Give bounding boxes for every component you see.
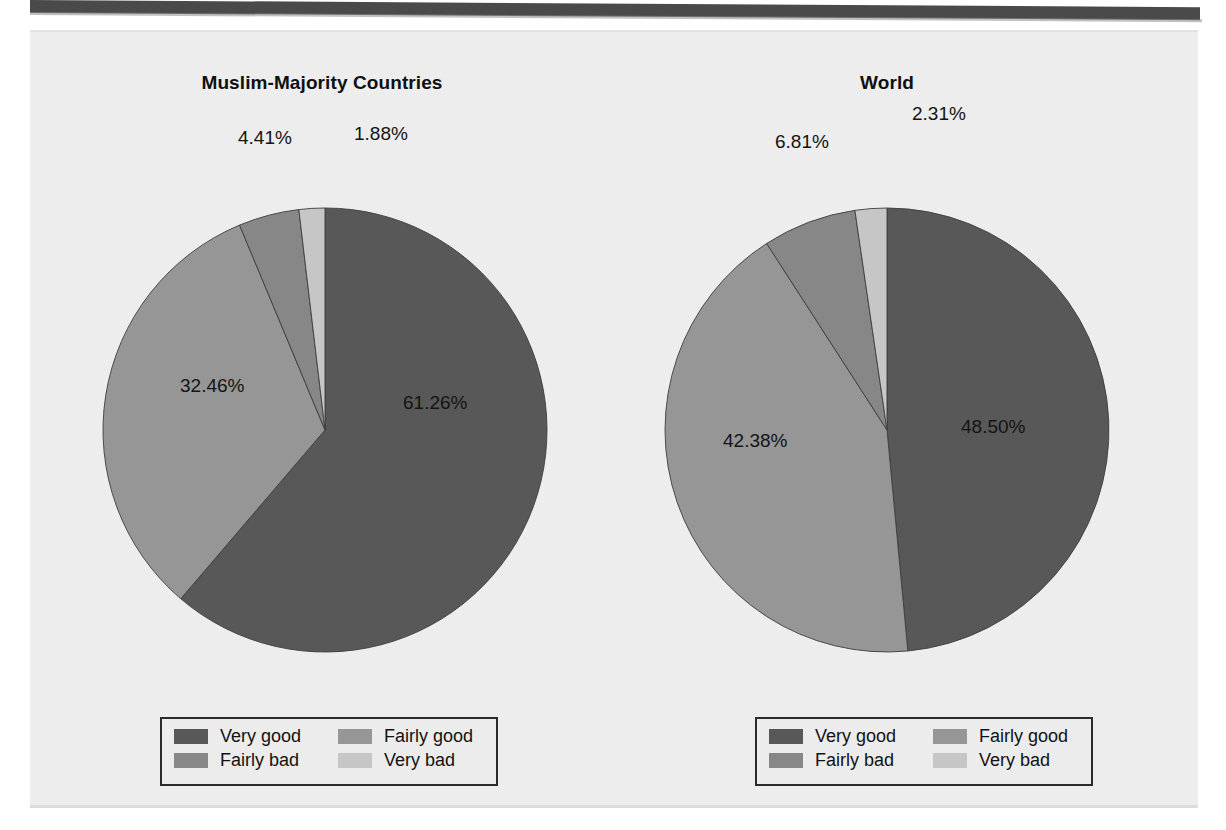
legend-right: Very good Fairly good Fairly bad Very ba… [755, 717, 1093, 786]
legend-label-fairly-bad: Fairly bad [220, 750, 299, 771]
pie-graphic-right [595, 30, 1179, 730]
figure-panel: Muslim-Majority Countries 61.26% 32.46% … [30, 30, 1198, 808]
legend-label-very-bad: Very bad [979, 750, 1050, 771]
legend-swatch-fairly-good-icon [338, 729, 372, 744]
legend-item-very-bad[interactable]: Very bad [338, 750, 484, 771]
legend-swatch-fairly-bad-icon [769, 753, 803, 768]
slice-label-fairly-good-right: 42.38% [723, 430, 787, 452]
slice-label-fairly-bad-left: 4.41% [238, 127, 292, 149]
slice-label-very-bad-left: 1.88% [354, 123, 408, 145]
legend-item-very-bad[interactable]: Very bad [933, 750, 1079, 771]
pie-graphic-left [30, 30, 614, 730]
slice-label-very-good-right: 48.50% [961, 416, 1025, 438]
legend-label-fairly-good: Fairly good [979, 726, 1068, 747]
legend-item-very-good[interactable]: Very good [174, 726, 312, 747]
legend-swatch-very-bad-icon [933, 753, 967, 768]
legend-item-fairly-bad[interactable]: Fairly bad [769, 750, 907, 771]
legend-item-very-good[interactable]: Very good [769, 726, 907, 747]
legend-label-very-good: Very good [220, 726, 301, 747]
legend-swatch-very-good-icon [174, 729, 208, 744]
pie-chart-muslim-majority-countries: Muslim-Majority Countries 61.26% 32.46% … [30, 30, 614, 808]
slice-label-fairly-bad-right: 6.81% [775, 131, 829, 153]
legend-label-fairly-bad: Fairly bad [815, 750, 894, 771]
legend-swatch-fairly-good-icon [933, 729, 967, 744]
legend-swatch-very-bad-icon [338, 753, 372, 768]
legend-label-fairly-good: Fairly good [384, 726, 473, 747]
slice-label-fairly-good-left: 32.46% [180, 375, 244, 397]
legend-label-very-bad: Very bad [384, 750, 455, 771]
legend-item-fairly-bad[interactable]: Fairly bad [174, 750, 312, 771]
legend-swatch-fairly-bad-icon [174, 753, 208, 768]
legend-swatch-very-good-icon [769, 729, 803, 744]
legend-item-fairly-good[interactable]: Fairly good [338, 726, 484, 747]
legend-item-fairly-good[interactable]: Fairly good [933, 726, 1079, 747]
pie-chart-world: World 48.50% 42.38% 6.81% 2.31% Very goo… [595, 30, 1179, 808]
legend-label-very-good: Very good [815, 726, 896, 747]
slice-label-very-good-left: 61.26% [403, 392, 467, 414]
slice-label-very-bad-right: 2.31% [912, 103, 966, 125]
legend-left: Very good Fairly good Fairly bad Very ba… [160, 717, 498, 786]
